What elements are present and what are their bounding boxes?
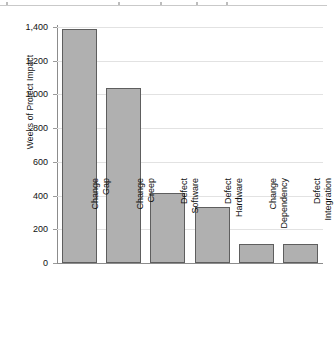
- y-axis-tick-label: 1,400: [0, 22, 48, 32]
- cropped-text-fleck: [118, 2, 120, 5]
- y-axis-tick: [53, 229, 57, 230]
- x-axis-category-label: DefectIntegration: [312, 178, 336, 268]
- gridline: [57, 61, 323, 62]
- y-axis-tick: [53, 27, 57, 28]
- x-axis-label-line: Dependency: [279, 178, 290, 268]
- cropped-text-fleck: [6, 2, 8, 5]
- y-axis-tick-label: 1,000: [0, 89, 48, 99]
- cropped-text-fleck: [196, 2, 198, 5]
- cropped-text-fleck: [160, 2, 162, 5]
- y-axis-tick: [53, 94, 57, 95]
- x-axis-label-line: Defect: [179, 178, 190, 268]
- x-axis-category-label: ChangeCreep: [135, 178, 159, 268]
- gridline: [57, 27, 323, 28]
- x-axis-category-label: ChangeGap: [90, 178, 114, 268]
- y-axis-tick-label: 0: [0, 258, 48, 268]
- y-axis-tick-label: 200: [0, 224, 48, 234]
- x-axis-label-line: Gap: [101, 178, 112, 268]
- x-axis-label-line: Change: [135, 178, 146, 268]
- gridline: [57, 128, 323, 129]
- y-axis-tick: [53, 162, 57, 163]
- gridline: [57, 162, 323, 163]
- x-axis-label-line: Creep: [146, 178, 157, 268]
- x-axis-category-label: DefectHardware: [223, 178, 247, 268]
- gridline: [57, 94, 323, 95]
- y-axis-tick: [53, 196, 57, 197]
- y-axis-tick-label: 800: [0, 123, 48, 133]
- x-axis-category-label: DefectSoftware: [179, 178, 203, 268]
- x-axis-label-line: Change: [90, 178, 101, 268]
- x-axis-category-label: ChangeDependency: [268, 178, 292, 268]
- x-axis-label-line: Defect: [223, 178, 234, 268]
- x-axis-label-line: Integration: [323, 178, 334, 268]
- cropped-header-rule: [0, 5, 327, 6]
- y-axis-tick: [53, 128, 57, 129]
- y-axis-tick: [53, 263, 57, 264]
- cropped-text-fleck: [226, 2, 228, 5]
- x-axis-label-line: Defect: [312, 178, 323, 268]
- y-axis-tick-label: 600: [0, 157, 48, 167]
- y-axis-tick: [53, 61, 57, 62]
- x-axis-label-line: Software: [190, 178, 201, 268]
- x-axis-label-line: Hardware: [234, 178, 245, 268]
- y-axis-tick-label: 400: [0, 191, 48, 201]
- y-axis-tick-label: 1,200: [0, 56, 48, 66]
- x-axis-label-line: Change: [268, 178, 279, 268]
